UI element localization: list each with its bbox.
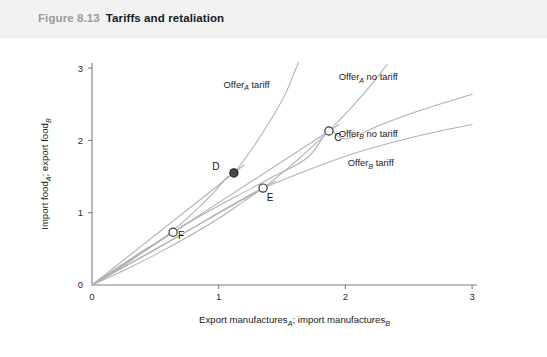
- offer-curves: [92, 62, 472, 285]
- y-tick-label: 2: [78, 135, 83, 146]
- curve-label-offer-b-no-tariff: OfferB no tariff: [339, 128, 398, 141]
- y-axis-ticks: 0123: [78, 63, 92, 291]
- data-point-d: [230, 169, 238, 177]
- offer-curve-offer-b-tariff: [92, 124, 472, 285]
- x-tick-label: 3: [469, 291, 474, 302]
- data-point-label-d: D: [212, 161, 219, 172]
- figure-title: Tariffs and retaliation: [106, 12, 224, 24]
- data-point-label-c: C: [334, 132, 341, 143]
- terms-of-trade-rays: [92, 124, 339, 285]
- offer-curve-offer-a-no-tariff: [92, 64, 387, 285]
- plot-area: 0123 0123 OfferA tariffOfferA no tariffO…: [0, 38, 547, 357]
- curve-label-offer-b-tariff: OfferB tariff: [348, 157, 394, 170]
- x-axis-title: Export manufacturesA; import manufacture…: [199, 314, 390, 328]
- data-point-e: [259, 184, 267, 192]
- x-axis-ticks: 0123: [89, 285, 474, 302]
- offer-curve-chart: 0123 0123 OfferA tariffOfferA no tariffO…: [0, 38, 547, 357]
- x-tick-label: 2: [343, 291, 348, 302]
- x-tick-label: 0: [89, 291, 94, 302]
- curve-label-offer-a-tariff: OfferA tariff: [224, 79, 270, 92]
- x-tick-label: 1: [216, 291, 221, 302]
- y-axis-title: Import foodA; export foodB: [39, 118, 53, 230]
- y-tick-label: 3: [78, 63, 83, 74]
- data-point-f: [169, 228, 177, 236]
- data-point-label-f: F: [178, 230, 184, 241]
- offer-curve-labels: OfferA tariffOfferA no tariffOfferB no t…: [224, 71, 399, 170]
- offer-curve-offer-a-tariff: [92, 62, 299, 285]
- data-point-c: [325, 127, 333, 135]
- figure-container: Figure 8.13Tariffs and retaliation 0123 …: [0, 0, 547, 357]
- y-tick-label: 1: [78, 207, 83, 218]
- data-point-label-e: E: [267, 192, 274, 203]
- y-tick-label: 0: [78, 279, 83, 290]
- figure-caption: Figure 8.13Tariffs and retaliation: [38, 12, 224, 24]
- offer-curve-offer-b-no-tariff: [92, 94, 472, 285]
- figure-number: Figure 8.13: [38, 12, 100, 24]
- curve-label-offer-a-no-tariff: OfferA no tariff: [339, 71, 398, 84]
